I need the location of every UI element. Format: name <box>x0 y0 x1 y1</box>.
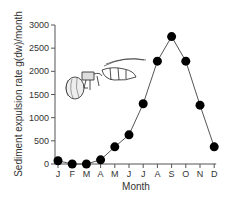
data-point <box>68 160 77 169</box>
x-tick-label: S <box>169 169 175 179</box>
data-point <box>110 142 119 151</box>
y-tick-label: 2500 <box>29 43 49 53</box>
data-point <box>139 99 148 108</box>
x-tick-label: A <box>98 169 104 179</box>
x-axis: JFMAMJJASOND <box>55 164 218 179</box>
data-point <box>54 156 63 165</box>
data-point <box>125 130 134 139</box>
insect-illustration-icon <box>66 59 146 99</box>
x-tick-label: O <box>182 169 189 179</box>
x-axis-title: Month <box>122 181 150 192</box>
y-tick-label: 1000 <box>29 113 49 123</box>
data-points <box>54 32 219 168</box>
data-point <box>82 160 91 169</box>
data-point <box>210 142 219 151</box>
x-tick-label: J <box>141 169 146 179</box>
x-tick-label: A <box>154 169 160 179</box>
data-point <box>167 32 176 41</box>
series-line <box>58 37 214 164</box>
x-tick-label: F <box>69 169 75 179</box>
y-tick-label: 2000 <box>29 66 49 76</box>
x-tick-label: J <box>56 169 61 179</box>
y-tick-label: 500 <box>34 136 49 146</box>
data-point <box>153 57 162 66</box>
line-chart: 050010001500200025003000 JFMAMJJASOND Se… <box>0 0 248 199</box>
x-tick-label: M <box>111 169 119 179</box>
data-point <box>181 57 190 66</box>
x-tick-label: M <box>83 169 91 179</box>
y-tick-label: 0 <box>44 159 49 169</box>
x-tick-label: D <box>211 169 218 179</box>
y-tick-label: 1500 <box>29 90 49 100</box>
y-axis: 050010001500200025003000 <box>29 20 55 169</box>
y-axis-title: Sediment expulsion rate g(dw)/month <box>13 11 24 177</box>
data-point <box>196 101 205 110</box>
x-tick-label: N <box>197 169 204 179</box>
data-point <box>96 155 105 164</box>
x-tick-label: J <box>127 169 132 179</box>
y-tick-label: 3000 <box>29 20 49 30</box>
